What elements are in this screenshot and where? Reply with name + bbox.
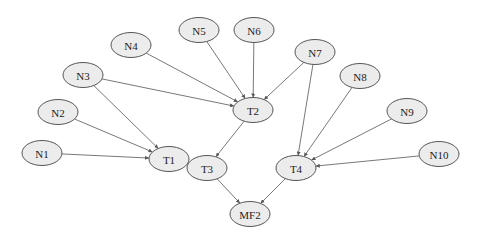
node-t1: T1 <box>149 147 189 172</box>
edge-n4-to-t2 <box>146 53 238 102</box>
edge-t4-to-mf2 <box>261 179 286 204</box>
node-n1: N1 <box>22 141 62 166</box>
edge-n6-to-t2 <box>253 42 254 97</box>
edge-line <box>304 87 352 156</box>
node-label: N10 <box>430 149 449 161</box>
edge-line <box>75 119 153 152</box>
edge-line <box>216 121 244 157</box>
edge-line <box>316 156 419 166</box>
node-label: T4 <box>290 163 303 175</box>
node-n5: N5 <box>179 18 219 43</box>
edge-t3-to-mf2 <box>217 179 240 203</box>
edge-n5-to-t2 <box>207 42 245 99</box>
edge-line <box>311 119 391 160</box>
edge-line <box>253 42 254 97</box>
node-t2: T2 <box>233 98 273 123</box>
directed-graph: N1N2N3N4N5N6N7N8N9N10T1T2T3T4MF2 <box>0 0 478 244</box>
edge-line <box>264 62 304 99</box>
node-t4: T4 <box>276 156 316 181</box>
node-label: N9 <box>400 106 414 118</box>
edge-n1-to-t1 <box>62 154 149 158</box>
node-n2: N2 <box>38 100 78 125</box>
node-t3: T3 <box>187 156 227 181</box>
node-n3: N3 <box>63 63 103 88</box>
node-label: T1 <box>163 154 175 166</box>
edge-n2-to-t1 <box>75 119 153 152</box>
node-label: T2 <box>247 105 259 117</box>
node-label: N7 <box>308 47 322 59</box>
edge-n3-to-t2 <box>102 79 234 106</box>
edge-n8-to-t4 <box>304 87 352 156</box>
edge-line <box>261 179 286 204</box>
edge-n7-to-t4 <box>298 64 313 155</box>
node-n9: N9 <box>387 99 427 124</box>
edge-n7-to-t2 <box>264 62 304 99</box>
node-mf2: MF2 <box>230 202 270 227</box>
node-n6: N6 <box>234 18 274 43</box>
edge-line <box>102 79 234 106</box>
node-n8: N8 <box>340 64 380 89</box>
node-n7: N7 <box>295 40 335 65</box>
edge-line <box>62 154 149 158</box>
edge-line <box>217 179 240 203</box>
node-label: N4 <box>124 40 138 52</box>
node-label: N1 <box>35 148 48 160</box>
node-label: N5 <box>192 25 206 37</box>
node-label: T3 <box>201 163 214 175</box>
node-label: N6 <box>247 25 261 37</box>
edge-line <box>207 42 245 99</box>
nodes-layer: N1N2N3N4N5N6N7N8N9N10T1T2T3T4MF2 <box>22 18 459 227</box>
node-n10: N10 <box>419 142 459 167</box>
edge-n9-to-t4 <box>311 119 391 160</box>
node-n4: N4 <box>111 33 151 58</box>
node-label: N3 <box>76 70 90 82</box>
node-label: N2 <box>51 107 64 119</box>
edge-line <box>146 53 238 102</box>
edge-line <box>298 64 313 155</box>
edge-n10-to-t4 <box>316 156 419 166</box>
edge-t2-to-t3 <box>216 121 244 157</box>
node-label: MF2 <box>239 209 260 221</box>
node-label: N8 <box>353 71 367 83</box>
edge-n3-to-t1 <box>94 86 158 149</box>
edge-line <box>94 86 158 149</box>
